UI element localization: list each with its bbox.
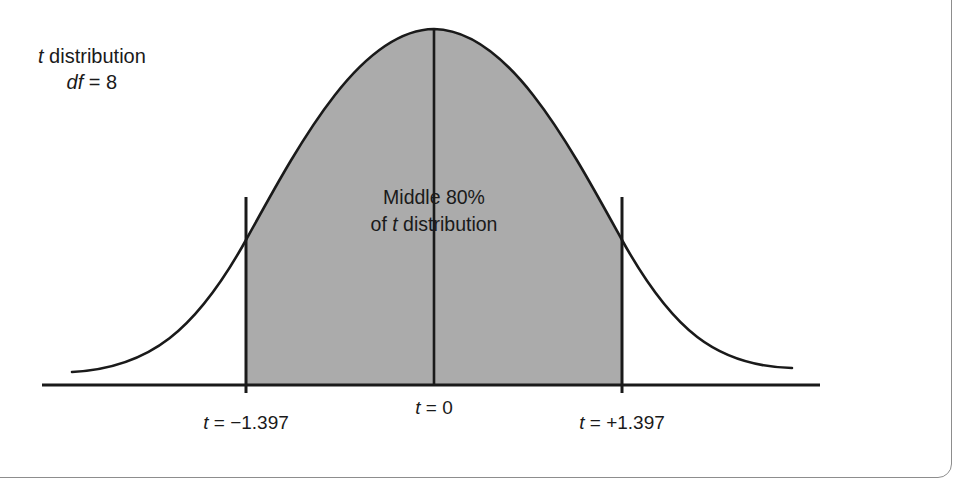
distribution-label-line1: t distribution [38,45,146,67]
t-distribution-figure: t distribution df = 8 Middle 80% of t di… [0,0,972,493]
tick-label-center-zero: t = 0 [415,396,453,419]
tick-label-right-critical-value: t = +1.397 [579,411,665,434]
distribution-label-line2: df = 8 [38,70,146,94]
tick-label-left-critical-value: t = −1.397 [203,411,289,434]
middle-label-line2: of t distribution [371,213,498,237]
variable-df-symbol: df [67,71,84,93]
middle-label-line1: Middle 80% [383,186,485,208]
distribution-label: t distribution df = 8 [38,44,146,95]
middle-80-percent-label: Middle 80% of t distribution [371,186,498,237]
